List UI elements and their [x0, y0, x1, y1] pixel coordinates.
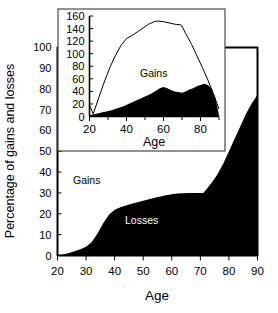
inset-x-tick-label: 80: [194, 123, 207, 135]
main-y-tick-label: 60: [39, 124, 51, 136]
inset-x-tick-label: 60: [157, 123, 170, 135]
inset-x-tick-label: 20: [83, 123, 96, 135]
main-y-tick-label: 70: [39, 104, 51, 116]
inset-y-tick-label: 120: [66, 35, 84, 47]
main-x-tick-label: 30: [80, 265, 93, 277]
main-x-tick-label: 20: [51, 265, 64, 277]
main-y-tick-label: 40: [39, 166, 51, 178]
main-x-tick-labels: 2030405060708090: [51, 265, 264, 277]
main-x-tick-label: 60: [165, 265, 178, 277]
inset-y-tick-label: 60: [72, 73, 84, 85]
inset-y-tick-label: 0: [78, 111, 84, 123]
inset-x-axis-title: Age: [143, 135, 165, 149]
inset-y-tick-label: 20: [72, 98, 84, 110]
main-x-tick-label: 80: [223, 265, 236, 277]
main-losses-label: Losses: [125, 214, 158, 226]
main-x-tick-label: 70: [194, 265, 207, 277]
inset-gains-label: Gains: [140, 67, 167, 79]
inset-y-tick-label: 100: [66, 48, 84, 60]
main-x-tick-label: 40: [108, 265, 121, 277]
main-y-tick-label: 80: [39, 83, 51, 95]
main-y-tick-labels: 1009080706050403020100: [33, 41, 51, 262]
main-y-tick-label: 0: [45, 250, 51, 262]
main-y-tick-label: 100: [33, 41, 51, 53]
gains-losses-area-chart: 1009080706050403020100 2030405060708090 …: [0, 0, 278, 313]
main-x-tick-label: 50: [137, 265, 150, 277]
main-y-tick-label: 10: [39, 229, 51, 241]
main-x-axis-title: Age: [145, 288, 169, 303]
main-y-axis-title: Percentage of gains and losses: [3, 64, 17, 238]
inset-y-tick-label: 80: [72, 60, 84, 72]
main-y-tick-label: 30: [39, 187, 51, 199]
inset-y-tick-label: 140: [66, 23, 84, 35]
main-y-tick-label: 50: [39, 145, 51, 157]
main-x-tick-label: 90: [251, 265, 264, 277]
main-y-tick-label: 20: [39, 208, 51, 220]
inset-y-tick-label: 160: [66, 10, 84, 22]
inset-plot: 160140120100806040200 20406080 Age Gains: [58, 9, 225, 151]
main-gains-label: Gains: [73, 174, 100, 186]
inset-x-tick-label: 40: [120, 123, 133, 135]
main-y-tick-label: 90: [39, 62, 51, 74]
inset-y-tick-label: 40: [72, 85, 84, 97]
figure-container: 1009080706050403020100 2030405060708090 …: [0, 0, 278, 313]
